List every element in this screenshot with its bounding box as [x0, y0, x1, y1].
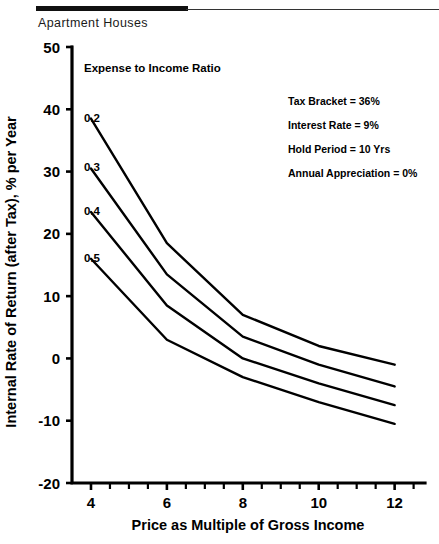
data-series-group	[91, 119, 395, 424]
y-axis-tick-label: 10	[43, 288, 60, 305]
annotation-interest-rate: Interest Rate = 9%	[288, 119, 379, 131]
x-axis-tick-labels: 4681012	[87, 494, 403, 511]
annotation-hold-period: Hold Period = 10 Yrs	[288, 143, 390, 155]
chart-figure: 50403020100-10-20 4681012 Internal Rate …	[0, 0, 439, 544]
annotation-tax-bracket: Tax Bracket = 36%	[288, 95, 380, 107]
x-axis-tick-label: 4	[87, 494, 96, 511]
y-axis-tick-label: 30	[43, 163, 60, 180]
x-axis-tick-label: 12	[386, 494, 403, 511]
y-axis-tick-label: 50	[43, 39, 60, 56]
x-axis-tick-label: 8	[239, 494, 247, 511]
data-series-line	[91, 119, 395, 365]
x-axis-tick-label: 6	[163, 494, 171, 511]
y-axis-tick-label: -20	[38, 475, 60, 492]
series-label: 0.2	[84, 112, 100, 124]
series-label: 0.4	[84, 205, 101, 217]
x-axis-title: Price as Multiple of Gross Income	[132, 517, 365, 533]
y-axis-title: Internal Rate of Return (after Tax), % p…	[3, 116, 19, 428]
chart-plot: 50403020100-10-20 4681012 Internal Rate …	[0, 0, 439, 544]
series-labels-group: 0.20.30.40.5	[84, 112, 101, 264]
parameters-annotation-block: Tax Bracket = 36% Interest Rate = 9% Hol…	[288, 95, 418, 179]
y-axis-tick-labels: 50403020100-10-20	[38, 39, 60, 492]
y-axis-tick-label: 40	[43, 101, 60, 118]
series-label: 0.3	[84, 161, 100, 173]
y-axis-tick-label: 0	[52, 350, 60, 367]
y-axis-tick-label: 20	[43, 225, 60, 242]
x-axis-tick-label: 10	[310, 494, 327, 511]
data-series-line	[91, 259, 395, 424]
chart-axes	[66, 47, 425, 490]
y-axis-tick-label: -10	[38, 412, 60, 429]
series-label: 0.5	[84, 252, 101, 264]
legend-title: Expense to Income Ratio	[84, 62, 221, 74]
annotation-annual-appreciation: Annual Appreciation = 0%	[288, 167, 418, 179]
